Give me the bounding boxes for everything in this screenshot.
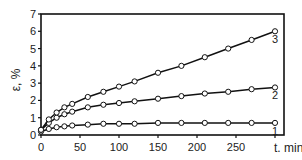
y-tick-label: 1 xyxy=(30,112,36,124)
data-point xyxy=(85,94,90,99)
data-point xyxy=(116,84,121,89)
y-axis-title: ε, % xyxy=(9,68,23,91)
data-point xyxy=(101,89,106,94)
data-point xyxy=(62,124,67,129)
data-point xyxy=(70,123,75,128)
data-point xyxy=(155,96,160,101)
data-point xyxy=(249,37,254,42)
x-axis-ticks: 050100150200250 xyxy=(38,135,275,153)
data-point xyxy=(132,99,137,104)
y-tick-label: 5 xyxy=(30,43,36,55)
data-point xyxy=(132,121,137,126)
x-tick-label: 250 xyxy=(227,141,245,153)
data-point xyxy=(116,121,121,126)
x-tick-label: 50 xyxy=(74,141,86,153)
data-point xyxy=(179,94,184,99)
curve-label: 3 xyxy=(272,33,278,45)
data-point xyxy=(54,110,59,115)
y-tick-label: 4 xyxy=(30,60,36,72)
x-tick-label: 100 xyxy=(110,141,128,153)
x-axis-title: t. min xyxy=(274,141,302,155)
data-point xyxy=(202,55,207,60)
x-tick-label: 150 xyxy=(149,141,167,153)
data-point xyxy=(179,63,184,68)
data-series: 123 xyxy=(38,29,278,137)
data-point xyxy=(85,105,90,110)
data-point xyxy=(155,120,160,125)
data-point xyxy=(101,102,106,107)
y-axis-ticks: 01234567 xyxy=(30,8,41,141)
x-tick-label: 200 xyxy=(188,141,206,153)
data-point xyxy=(38,127,43,132)
data-point xyxy=(46,126,51,131)
y-tick-label: 7 xyxy=(30,8,36,20)
data-point xyxy=(202,120,207,125)
data-point xyxy=(249,87,254,92)
curve-label: 2 xyxy=(272,89,278,101)
data-point xyxy=(132,79,137,84)
curve-label: 1 xyxy=(272,125,278,137)
data-point xyxy=(62,105,67,110)
y-tick-label: 2 xyxy=(30,94,36,106)
x-tick-label: 0 xyxy=(38,141,44,153)
data-point xyxy=(85,122,90,127)
data-point xyxy=(70,109,75,114)
y-tick-label: 3 xyxy=(30,77,36,89)
data-point xyxy=(249,120,254,125)
plot-frame xyxy=(41,14,284,135)
data-point xyxy=(101,121,106,126)
data-point xyxy=(70,101,75,106)
y-tick-label: 6 xyxy=(30,25,36,37)
y-tick-label: 0 xyxy=(30,129,36,141)
series-3: 3 xyxy=(38,29,278,133)
data-point xyxy=(54,125,59,130)
data-point xyxy=(116,100,121,105)
data-point xyxy=(155,70,160,75)
data-point xyxy=(179,120,184,125)
data-point xyxy=(62,112,67,117)
data-point xyxy=(226,46,231,51)
data-point xyxy=(226,120,231,125)
data-point xyxy=(54,115,59,120)
data-point xyxy=(46,117,51,122)
data-point xyxy=(202,91,207,96)
strain-time-chart: 01234567 050100150200250 123 ε, % t. min xyxy=(0,0,302,160)
data-point xyxy=(226,89,231,94)
